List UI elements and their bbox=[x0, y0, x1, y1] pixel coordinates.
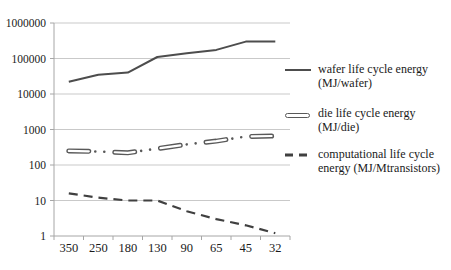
legend-label-wafer: wafer life cycle energy (MJ/wafer) bbox=[318, 62, 428, 90]
x-tick-label: 65 bbox=[210, 241, 223, 255]
legend-item-computational: computational life cycle energy (MJ/Mtra… bbox=[285, 147, 449, 175]
y-tick-label: 1000 bbox=[23, 124, 46, 136]
legend-label-die: die life cycle energy (MJ/die) bbox=[318, 106, 415, 134]
x-tick-label: 250 bbox=[89, 241, 108, 255]
chart-legend: wafer life cycle energy (MJ/wafer) die l… bbox=[285, 62, 449, 175]
x-tick-label: 90 bbox=[181, 241, 194, 255]
x-tick-label: 130 bbox=[148, 241, 167, 255]
legend-item-die: die life cycle energy (MJ/die) bbox=[285, 106, 449, 134]
legend-item-wafer: wafer life cycle energy (MJ/wafer) bbox=[285, 62, 449, 90]
legend-label-computational: computational life cycle energy (MJ/Mtra… bbox=[318, 147, 440, 175]
y-tick-label: 10 bbox=[35, 195, 47, 207]
legend-label-die-line2: (MJ/die) bbox=[318, 120, 415, 134]
series-die-line-outer bbox=[69, 136, 275, 153]
dashed-line-swatch-icon bbox=[285, 151, 311, 159]
chart-root: 1000000100000100001000100101350250180130… bbox=[0, 0, 451, 270]
legend-label-computational-line2: energy (MJ/Mtransistors) bbox=[318, 161, 440, 175]
x-tick-label: 32 bbox=[269, 241, 282, 255]
y-tick-label: 1000000 bbox=[6, 17, 47, 29]
hollow-dash-swatch-icon bbox=[285, 110, 311, 118]
x-tick-label: 180 bbox=[118, 241, 137, 255]
y-tick-label: 10000 bbox=[17, 88, 46, 100]
series-wafer-line bbox=[69, 42, 275, 82]
legend-label-wafer-line2: (MJ/wafer) bbox=[318, 76, 428, 90]
y-tick-label: 100 bbox=[29, 159, 47, 171]
legend-label-die-line1: die life cycle energy bbox=[318, 106, 415, 120]
legend-label-wafer-line1: wafer life cycle energy bbox=[318, 62, 428, 76]
legend-label-computational-line1: computational life cycle bbox=[318, 147, 440, 161]
x-tick-label: 350 bbox=[59, 241, 78, 255]
series-computational-line bbox=[69, 193, 275, 233]
x-tick-label: 45 bbox=[240, 241, 253, 255]
y-tick-label: 100000 bbox=[12, 53, 47, 65]
y-tick-label: 1 bbox=[40, 230, 46, 242]
solid-line-swatch-icon bbox=[285, 69, 311, 71]
